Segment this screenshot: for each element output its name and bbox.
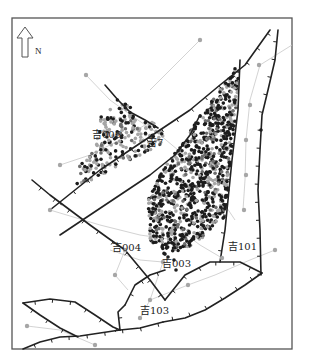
well-point	[164, 182, 168, 186]
well-point	[165, 246, 169, 250]
well-point	[204, 209, 208, 213]
well-point	[200, 151, 204, 155]
north-label: N	[35, 46, 42, 56]
fault-tick	[73, 191, 75, 194]
well-point	[161, 244, 165, 248]
well-point	[221, 216, 225, 220]
well-point	[103, 141, 107, 145]
well-point	[114, 119, 118, 123]
well-point	[215, 100, 219, 104]
well-point	[148, 298, 152, 302]
well-point	[185, 208, 189, 212]
well-point	[199, 165, 203, 169]
well-point	[164, 170, 168, 174]
well-point	[200, 157, 204, 161]
well-point	[216, 182, 220, 186]
well-point	[220, 165, 224, 169]
well-point	[207, 176, 211, 180]
well-point	[195, 172, 199, 176]
fault-tick	[34, 344, 35, 347]
fault-line	[32, 180, 165, 300]
well-point	[152, 219, 156, 223]
well-point	[161, 175, 165, 179]
well-point	[198, 139, 202, 143]
fault-tick	[220, 297, 222, 300]
well-point	[219, 205, 223, 209]
well-point	[179, 154, 183, 158]
well-point	[177, 242, 181, 246]
well-point	[244, 138, 248, 142]
well-point	[224, 132, 228, 136]
well-point	[206, 201, 210, 205]
well-point	[206, 137, 210, 141]
well-point	[155, 204, 159, 208]
well-point	[191, 195, 195, 199]
well-point	[155, 182, 159, 186]
well-point	[206, 219, 210, 223]
well-point	[208, 130, 212, 134]
fault-line	[258, 30, 278, 275]
well-point	[222, 151, 226, 155]
well-point	[153, 198, 157, 202]
well-point	[273, 248, 277, 252]
well-point	[151, 210, 155, 214]
well-point	[203, 123, 207, 127]
well-point	[179, 167, 183, 171]
well-point	[179, 220, 183, 224]
well-point	[175, 178, 179, 182]
well-point	[144, 127, 148, 131]
well-point	[213, 182, 217, 186]
well-label: 吉101	[228, 241, 257, 252]
well-point	[187, 155, 191, 159]
well-point	[185, 233, 189, 237]
well-point	[223, 118, 227, 122]
well-point	[188, 161, 192, 165]
fault-tick	[105, 332, 106, 335]
fault-tick	[221, 233, 224, 234]
well-point	[150, 128, 154, 132]
well-point	[179, 238, 183, 242]
well-point	[180, 206, 184, 210]
well-point	[104, 170, 108, 174]
well-point	[193, 163, 197, 167]
well-point	[175, 182, 179, 186]
well-point	[220, 155, 224, 159]
well-point	[93, 343, 97, 347]
well-point	[131, 126, 135, 130]
well-point	[170, 241, 174, 245]
well-point	[196, 209, 200, 213]
fault-tick	[35, 301, 36, 304]
network-line	[115, 250, 128, 290]
well-point	[222, 91, 226, 95]
well-point	[169, 192, 173, 196]
well-point	[97, 174, 101, 178]
fault-tick	[272, 59, 275, 60]
well-point	[221, 177, 225, 181]
fault-tick	[205, 97, 207, 100]
well-point	[205, 144, 209, 148]
well-point	[222, 101, 226, 105]
well-point	[223, 207, 227, 211]
well-point	[217, 115, 221, 119]
well-point	[149, 217, 153, 221]
well-point	[94, 150, 98, 154]
well-point	[75, 182, 79, 186]
well-point	[211, 140, 215, 144]
well-point	[154, 208, 158, 212]
fault-tick	[136, 267, 139, 269]
well-point	[79, 172, 83, 176]
well-point	[109, 108, 113, 112]
well-point	[227, 121, 231, 125]
well-point	[109, 156, 113, 160]
fault-tick	[61, 329, 63, 332]
well-point	[157, 213, 161, 217]
well-point	[196, 219, 200, 223]
well-point	[227, 95, 231, 99]
well-point	[192, 237, 196, 241]
well-point	[207, 152, 211, 156]
well-point	[219, 139, 223, 143]
fault-tick	[132, 149, 134, 152]
well-point	[138, 153, 142, 157]
well-point	[94, 154, 98, 158]
well-point	[233, 99, 237, 103]
